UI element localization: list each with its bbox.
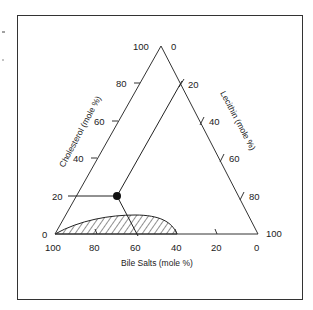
cholesterol-tick-20: 20 <box>52 191 63 202</box>
bile-salts-tick-80: 80 <box>89 242 100 253</box>
cholesterol-tick-40: 40 <box>73 153 84 164</box>
bile-salts-tick-20: 20 <box>211 242 222 253</box>
cholesterol-tick-80: 80 <box>116 78 127 89</box>
bile-salts-tick-0: 0 <box>254 242 259 253</box>
triangle-outline <box>55 46 258 234</box>
bile-salts-tick-100: 100 <box>45 242 61 253</box>
bile-salts-tick-60: 60 <box>130 242 141 253</box>
composition-point <box>113 192 121 200</box>
lecithin-tick-100: 100 <box>266 228 282 239</box>
lecithin-tick-40: 40 <box>209 116 220 127</box>
lecithin-tick-60: 60 <box>229 153 240 164</box>
lecithin-axis-ticks <box>179 79 244 200</box>
bile-salts-axis-title: Bile Salts (mole %) <box>121 258 193 268</box>
cholesterol-tick-60: 60 <box>94 116 105 127</box>
hatched-micellar-region <box>55 215 177 234</box>
lecithin-tick-80: 80 <box>249 191 260 202</box>
cholesterol-tick-0: 0 <box>42 229 47 240</box>
ternary-diagram: 100 0 80 60 40 20 0 20 40 60 80 100 100 … <box>0 0 313 310</box>
bile-salts-tick-40: 40 <box>171 242 182 253</box>
apex-lecithin-label: 0 <box>171 41 176 52</box>
apex-cholesterol-label: 100 <box>133 41 149 52</box>
lecithin-axis-title: Lecithin (mole %) <box>218 89 258 152</box>
lecithin-tick-20: 20 <box>188 79 199 90</box>
lecithin-guide-line <box>117 81 182 196</box>
